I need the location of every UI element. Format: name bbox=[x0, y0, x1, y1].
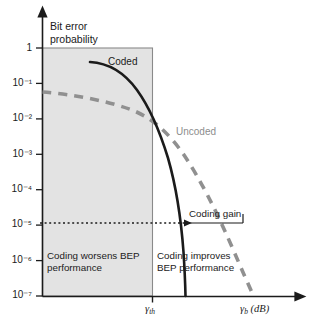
coded-curve-label: Coded bbox=[108, 56, 137, 68]
y-tick-label-1e-5: 10⁻⁵ bbox=[2, 218, 32, 230]
worsens-annotation-line2: performance bbox=[47, 262, 102, 273]
y-tick-label-1e-4: 10⁻⁴ bbox=[2, 183, 32, 195]
y-axis-title-line1: Bit error bbox=[50, 20, 87, 32]
y-axis-title-line2: probability bbox=[50, 33, 98, 45]
coding-gain-label: Coding gain bbox=[189, 208, 241, 219]
worsens-annotation-line1: Coding worsens BEP bbox=[47, 250, 140, 261]
y-tick-label-1: 1 bbox=[4, 42, 32, 54]
y-tick-label-1e-6: 10⁻⁶ bbox=[2, 254, 32, 266]
improves-annotation-line2: BEP performance bbox=[157, 262, 234, 273]
y-tick-label-1e-3: 10⁻³ bbox=[2, 148, 32, 160]
x-threshold-label: γth bbox=[145, 303, 155, 315]
y-tick-label-1e-2: 10⁻² bbox=[2, 112, 32, 124]
uncoded-curve-label: Uncoded bbox=[176, 126, 216, 138]
bit-error-probability-figure: Bit error probability 1 10⁻¹ 10⁻² 10⁻³ 1… bbox=[0, 0, 310, 330]
improves-annotation-line1: Coding improves bbox=[157, 250, 231, 261]
x-axis-label: γb (dB) bbox=[240, 303, 269, 315]
y-tick-label-1e-1: 10⁻¹ bbox=[2, 77, 32, 89]
chart-canvas bbox=[0, 0, 310, 330]
y-tick-label-1e-7: 10⁻⁷ bbox=[2, 289, 32, 301]
y-axis-ticks bbox=[36, 48, 43, 296]
